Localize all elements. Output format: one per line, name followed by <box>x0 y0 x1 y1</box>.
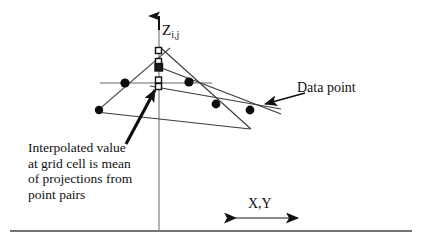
interpolation-diagram: Zi,j Data point X,Y Interpolated value a… <box>0 0 426 247</box>
connector-pair-c <box>161 48 251 129</box>
projection-marker-m5 <box>156 84 162 90</box>
diagram-canvas <box>0 0 426 247</box>
z-axis-label-main: Z <box>162 22 171 38</box>
interpolation-caption-line-2: at grid cell is mean <box>28 156 132 172</box>
z-axis-label: Zi,j <box>162 22 179 39</box>
z-axis-label-subscript: i,j <box>171 29 179 40</box>
data-point-p4 <box>212 100 221 109</box>
interpolation-leader-arrow <box>126 90 155 144</box>
interpolation-caption-line-1: Interpolated value <box>28 140 132 156</box>
data-point-p1 <box>95 106 103 114</box>
data-point-p5 <box>246 106 255 115</box>
data-point-p3 <box>184 77 193 86</box>
data-point-label: Data point <box>297 80 356 96</box>
interpolation-caption-line-4: point pairs <box>28 187 132 203</box>
connector-pair-a <box>96 112 250 129</box>
projection-marker-m4 <box>156 77 162 83</box>
xy-scale-label: X,Y <box>248 196 272 212</box>
interpolation-caption: Interpolated value at grid cell is mean … <box>28 140 132 202</box>
projection-marker-m1 <box>156 48 162 54</box>
interpolation-caption-line-3: of projections from <box>28 171 132 187</box>
data-point-p2 <box>120 78 129 87</box>
projection-marker-m3 <box>155 64 163 72</box>
